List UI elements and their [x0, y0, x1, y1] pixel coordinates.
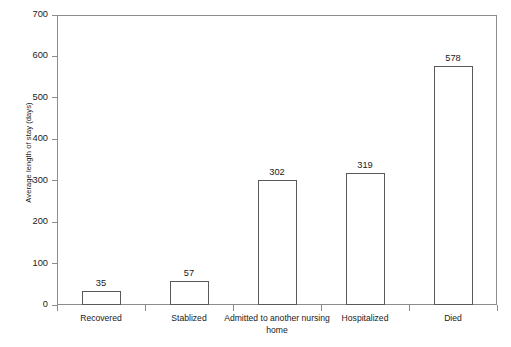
y-tick-label: 600	[32, 50, 48, 61]
y-tick-mark	[52, 97, 57, 98]
y-tick-label: 0	[43, 299, 48, 310]
bar	[346, 173, 385, 305]
x-tick-mark	[145, 305, 146, 311]
y-tick-label: 200	[32, 216, 48, 227]
y-tick-label: 500	[32, 92, 48, 103]
y-tick-mark	[52, 222, 57, 223]
y-tick-mark	[52, 263, 57, 264]
y-tick-mark	[52, 180, 57, 181]
bar	[170, 281, 209, 305]
y-tick-label: 300	[32, 175, 48, 186]
bar-value-label: 57	[159, 268, 219, 279]
y-axis-title: Average length of stay (days)	[24, 68, 33, 238]
x-tick-mark	[57, 305, 58, 311]
bar-value-label: 302	[247, 167, 307, 178]
y-tick-label: 100	[32, 258, 48, 269]
x-tick-mark	[233, 305, 234, 311]
y-tick-label: 700	[32, 9, 48, 20]
x-axis-label: Died	[398, 313, 508, 325]
bar-value-label: 578	[423, 53, 483, 64]
y-tick-mark	[52, 56, 57, 57]
y-tick-mark	[52, 139, 57, 140]
x-tick-mark	[409, 305, 410, 311]
bar	[434, 66, 473, 305]
y-tick-label: 400	[32, 133, 48, 144]
y-tick-mark	[52, 15, 57, 16]
x-tick-mark	[321, 305, 322, 311]
bar-value-label: 319	[335, 160, 395, 171]
x-tick-mark	[497, 305, 498, 311]
bar	[258, 180, 297, 305]
bar-value-label: 35	[71, 278, 131, 289]
bar	[82, 291, 121, 306]
bar-chart: Average length of stay (days) 0100200300…	[0, 0, 511, 347]
